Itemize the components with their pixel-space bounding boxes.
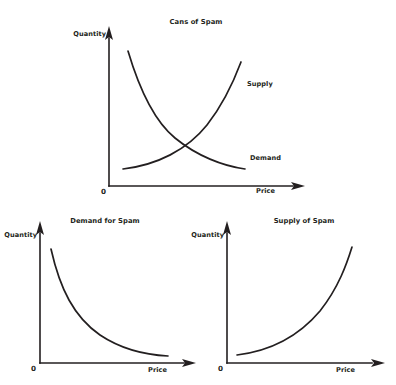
supply-demand-figure: Quantity Cans of Spam 0 Price Supply Dem… [0, 0, 396, 385]
supply-curve [123, 62, 241, 169]
origin-label: 0 [101, 187, 106, 196]
y-axis-label: Quantity [191, 231, 224, 239]
chart-cans-of-spam: Quantity Cans of Spam 0 Price Supply Dem… [95, 10, 310, 200]
chart-title: Cans of Spam [170, 18, 223, 26]
x-axis-arrowhead [371, 359, 385, 367]
demand-curve [51, 249, 168, 356]
chart-title: Demand for Spam [70, 217, 140, 225]
origin-label: 0 [218, 364, 223, 373]
x-axis-label: Price [148, 366, 167, 374]
chart-title: Supply of Spam [274, 217, 335, 225]
chart-supply-of-spam: Quantity Supply of Spam 0 Price [196, 205, 394, 385]
origin-label: 0 [31, 364, 36, 373]
chart-demand-for-spam: Quantity Demand for Spam 0 Price [8, 205, 198, 385]
supply-curve [237, 247, 352, 355]
x-axis-label: Price [336, 366, 355, 374]
y-axis-label: Quantity [73, 30, 106, 38]
demand-curve-label: Demand [250, 154, 281, 162]
demand-curve [128, 51, 245, 169]
x-axis-label: Price [256, 187, 275, 195]
supply-curve-label: Supply [247, 80, 273, 88]
y-axis-label: Quantity [4, 231, 37, 239]
